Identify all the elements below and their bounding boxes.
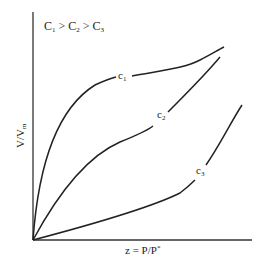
x-axis-label: z = P/P* bbox=[125, 244, 160, 256]
y-axis-label: V/Vm bbox=[8, 124, 32, 148]
label-c1: c1 bbox=[118, 69, 126, 83]
curve-c3 bbox=[33, 105, 242, 240]
chart-plot bbox=[0, 0, 274, 268]
curve-c1 bbox=[33, 47, 224, 240]
ordering-annotation: C1 > C2 > C3 bbox=[44, 19, 104, 34]
label-c3: c3 bbox=[196, 164, 204, 178]
label-c2: c2 bbox=[157, 108, 165, 122]
